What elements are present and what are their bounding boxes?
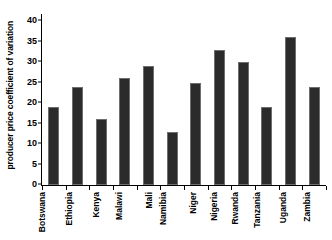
x-axis-label-text: Ethiopia	[65, 192, 74, 226]
bar-slot	[66, 18, 90, 185]
bar-chart-figure: producer price coefficient of variation …	[0, 0, 332, 240]
x-axis-label-slot: Tanzania	[255, 190, 279, 240]
y-axis-title-text: producer price coefficient of variation	[6, 21, 15, 170]
x-axis-label-text: Botswana	[38, 192, 47, 232]
bar	[238, 62, 249, 185]
bars-layer	[42, 18, 326, 185]
bar	[96, 119, 107, 185]
x-axis-label-text: Malawi	[115, 192, 124, 220]
bar	[48, 107, 59, 185]
bar-slot	[42, 18, 66, 185]
x-axis-label-text: Zambia	[303, 192, 312, 222]
x-axis-label-slot: Mali	[137, 190, 161, 240]
bar-slot	[302, 18, 326, 185]
x-axis-labels: BotswanaEthiopiaKenyaMalawiMaliNamibiaNi…	[42, 190, 326, 240]
x-axis-label-slot: Zambia	[302, 190, 326, 240]
bar	[167, 132, 178, 185]
x-axis-label-slot: Namibia	[160, 190, 184, 240]
x-axis-tick-mark	[326, 186, 327, 190]
bar	[72, 87, 83, 185]
bar-slot	[279, 18, 303, 185]
bar-slot	[208, 18, 232, 185]
bar-slot	[231, 18, 255, 185]
bar	[309, 87, 320, 185]
bar-slot	[113, 18, 137, 185]
bar	[119, 78, 130, 185]
x-axis-label-text: Rwanda	[231, 192, 240, 225]
x-axis-label-text: Namibia	[160, 192, 169, 225]
bar-slot	[184, 18, 208, 185]
x-axis-label-text: Tanzania	[253, 192, 262, 228]
x-axis-label-slot: Kenya	[89, 190, 113, 240]
x-axis-label-text: Uganda	[279, 192, 288, 223]
x-axis-label-slot: Nigeria	[208, 190, 232, 240]
bar	[214, 50, 225, 185]
y-axis-title: producer price coefficient of variation	[0, 0, 20, 190]
x-axis-label-slot: Ethiopia	[66, 190, 90, 240]
x-axis-label-text: Mali	[144, 192, 153, 209]
x-axis-label-slot: Uganda	[279, 190, 303, 240]
x-axis-label-slot: Malawi	[113, 190, 137, 240]
bar-slot	[255, 18, 279, 185]
x-axis-label-text: Nigeria	[209, 192, 218, 221]
x-axis-label-text: Kenya	[92, 192, 101, 218]
bar-slot	[89, 18, 113, 185]
bar	[285, 37, 296, 185]
x-axis-label-slot: Botswana	[42, 190, 66, 240]
bar	[261, 107, 272, 185]
bar-slot	[160, 18, 184, 185]
bar	[190, 83, 201, 186]
x-axis-label-slot: Niger	[184, 190, 208, 240]
plot-area: 0510152025303540	[41, 18, 326, 186]
bar-slot	[137, 18, 161, 185]
bar	[143, 66, 154, 185]
x-axis-label-text: Niger	[189, 192, 198, 214]
